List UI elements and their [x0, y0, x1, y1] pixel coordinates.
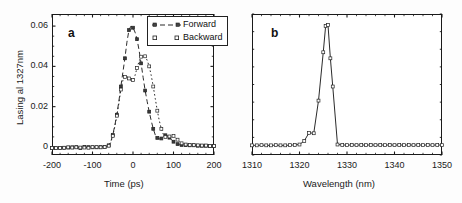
data-point-marker — [168, 135, 171, 138]
data-point-marker — [119, 88, 122, 91]
data-point-marker — [172, 134, 175, 137]
data-point-marker — [209, 144, 212, 147]
data-point-marker — [184, 143, 187, 146]
data-point-marker — [200, 144, 203, 147]
data-point-marker — [63, 146, 66, 149]
data-point-marker — [329, 57, 332, 60]
data-point-marker — [322, 51, 325, 54]
data-point-marker — [312, 132, 315, 135]
data-point-marker — [365, 144, 368, 147]
legend-entry-forward: Forward — [148, 18, 227, 32]
data-point-marker — [422, 144, 425, 147]
data-point-marker — [412, 144, 415, 147]
x-tick-label-b-4: 1350 — [428, 160, 456, 170]
data-point-marker — [436, 143, 439, 146]
data-point-marker — [136, 38, 139, 41]
data-point-marker — [403, 144, 406, 147]
x-tick-label-a-0: -200 — [38, 160, 66, 170]
data-point-marker — [398, 143, 401, 146]
data-point-marker — [87, 146, 90, 149]
data-point-marker — [260, 144, 263, 147]
series-line-backward — [52, 55, 214, 148]
data-point-marker — [341, 143, 344, 146]
x-tick-label-b-1: 1320 — [286, 160, 314, 170]
data-point-marker — [111, 134, 114, 137]
data-point-marker — [123, 57, 126, 60]
data-point-marker — [298, 143, 301, 146]
y-axis-title-a: Lasing al 1327nm — [14, 33, 25, 143]
data-point-marker — [71, 146, 74, 149]
y-tick-label-a-1: 0.02 — [18, 101, 48, 111]
data-point-marker — [336, 143, 339, 146]
data-point-marker — [67, 146, 70, 149]
data-point-marker — [393, 144, 396, 147]
data-point-marker — [327, 24, 330, 27]
data-point-marker — [204, 144, 207, 147]
figure-container: a Lasing al 1327nm Time (ps) Forward Bac… — [0, 0, 462, 203]
data-point-marker — [128, 77, 131, 80]
data-point-marker — [55, 147, 58, 150]
data-point-marker — [374, 144, 377, 147]
data-point-marker — [303, 139, 306, 142]
data-point-marker — [331, 85, 334, 88]
data-point-marker — [426, 143, 429, 146]
data-point-marker — [115, 114, 118, 117]
x-tick-label-a-1: -100 — [79, 160, 107, 170]
data-point-marker — [83, 146, 86, 149]
plot-svg-b — [231, 0, 462, 203]
data-point-marker — [103, 146, 106, 149]
data-point-marker — [152, 85, 155, 88]
data-point-marker — [431, 144, 434, 147]
data-point-marker — [274, 144, 277, 147]
data-point-marker — [379, 143, 382, 146]
data-point-marker — [289, 144, 292, 147]
x-tick-label-b-0: 1310 — [238, 160, 266, 170]
x-tick-label-a-4: 200 — [200, 160, 228, 170]
data-point-marker — [355, 144, 358, 147]
data-point-marker — [317, 99, 320, 102]
data-point-marker — [140, 55, 143, 58]
data-point-marker — [123, 75, 126, 78]
data-point-marker — [59, 147, 62, 150]
data-point-marker — [128, 29, 131, 32]
data-point-marker — [251, 144, 254, 147]
x-tick-label-a-2: 0 — [119, 160, 147, 170]
data-point-marker — [160, 127, 163, 130]
data-point-marker — [279, 144, 282, 147]
legend-sample-backward — [151, 31, 182, 45]
data-point-marker — [346, 144, 349, 147]
data-point-marker — [140, 62, 143, 65]
data-point-marker — [284, 144, 287, 147]
x-tick-label-b-3: 1340 — [381, 160, 409, 170]
x-axis-title-a: Time (ps) — [104, 178, 144, 189]
data-point-marker — [255, 144, 258, 147]
data-point-marker — [164, 135, 167, 138]
y-tick-label-a-2: 0.04 — [18, 60, 48, 70]
data-point-marker — [180, 142, 183, 145]
data-point-marker — [99, 146, 102, 149]
y-tick-label-a-3: 0.06 — [18, 20, 48, 30]
data-point-marker — [156, 109, 159, 112]
data-point-marker — [270, 144, 273, 147]
data-point-marker — [132, 26, 135, 29]
data-point-marker — [136, 67, 139, 70]
data-point-marker — [293, 143, 296, 146]
legend-entry-backward: Backward — [148, 31, 227, 45]
data-point-marker — [132, 79, 135, 82]
data-point-marker — [441, 144, 444, 147]
legend-label-backward: Backward — [183, 32, 223, 42]
data-point-marker — [144, 55, 147, 58]
data-point-marker — [196, 144, 199, 147]
data-point-marker — [51, 147, 54, 150]
data-point-marker — [308, 131, 311, 134]
data-point-marker — [160, 137, 163, 140]
data-point-marker — [265, 144, 268, 147]
x-tick-label-a-3: 100 — [160, 160, 188, 170]
y-tick-label-a-0: 0 — [18, 141, 48, 151]
data-point-marker — [350, 143, 353, 146]
data-point-marker — [407, 143, 410, 146]
data-point-marker — [107, 144, 110, 147]
data-point-marker — [176, 138, 179, 141]
data-point-marker — [79, 146, 82, 149]
series-line-spectrum — [252, 25, 442, 145]
